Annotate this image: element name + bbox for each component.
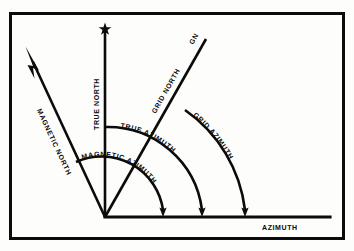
label-true-north: TRUE NORTH — [93, 78, 100, 130]
declination-diagram-page: MAGNETIC NORTH TRUE NORTH GRID NORTH GN … — [0, 0, 354, 251]
declination-diagram: MAGNETIC NORTH TRUE NORTH GRID NORTH GN … — [0, 0, 354, 251]
label-azimuth-baseline: AZIMUTH — [262, 224, 298, 231]
diagram-background — [0, 0, 354, 251]
